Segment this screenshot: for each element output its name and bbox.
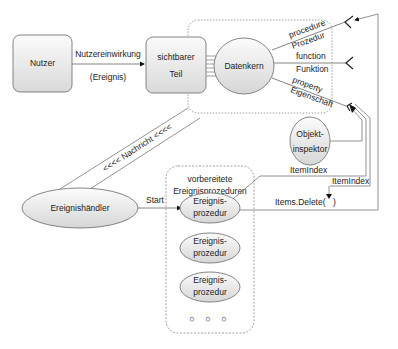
datenkern-node[interactable]: Datenkern [214, 38, 274, 94]
inspektor-label: inspektor [293, 144, 328, 154]
nachricht-line-lower [90, 118, 200, 189]
ereignisprozedur-3-node[interactable]: Ereignis- prozedur [180, 272, 240, 302]
nutzer-label: Nutzer [30, 58, 55, 68]
ereignisprozedur-3-line1: Ereignis- [193, 275, 227, 285]
ereignisprozedur-2-line1: Ereignis- [193, 236, 227, 246]
sichtbarer-label: sichtbarer [157, 52, 194, 62]
procedure-socket-icon [345, 16, 353, 28]
ereignisprozedur-3-line2: prozedur [193, 287, 227, 297]
ereignisprozedur-1-line2: prozedur [193, 208, 227, 218]
teil-label: Teil [170, 69, 183, 79]
nachricht-line-upper [60, 108, 188, 189]
nutzereinwirkung-label: Nutzereinwirkung [75, 49, 141, 59]
ereignisprozedur-2-line2: prozedur [193, 248, 227, 258]
itemindex-2-arrowhead-icon [326, 194, 332, 199]
diagram-canvas: Nutzer Nutzereinwirkung (Ereignis) sicht… [0, 0, 398, 349]
datenkern-label: Datenkern [224, 61, 263, 71]
more-ellipsis-icon: ○ ○ ○ [189, 314, 230, 324]
ereignishaendler-label: Ereignishändler [50, 203, 109, 213]
itemindex-1-label: ItemIndex [290, 165, 328, 175]
property-arrowhead-icon [349, 104, 356, 113]
funktion-label: Funktion [296, 64, 329, 74]
function-socket-icon [346, 57, 353, 69]
itemindex-line-2 [355, 104, 370, 186]
items-delete-label: Items.Delete( [275, 197, 326, 207]
objektinspektor-node[interactable]: Objekt- inspektor [290, 117, 330, 165]
items-delete-close: ) [333, 197, 336, 207]
nutzer-node[interactable]: Nutzer [13, 35, 72, 92]
ereignishaendler-node[interactable]: Ereignishändler [22, 188, 138, 228]
function-label: function [296, 51, 326, 61]
ereignisprozedur-1-line1: Ereignis- [193, 196, 227, 206]
itemindex-2-label: ItemIndex [332, 176, 370, 186]
objekt-label: Objekt- [296, 129, 324, 139]
sichtbarer-teil-node[interactable]: sichtbarer Teil [146, 37, 206, 93]
start-label: Start [146, 195, 165, 205]
ereignisprozedur-1-node[interactable]: Ereignis- prozedur [180, 193, 240, 223]
nachricht-label: <<<< Nachricht <<<< [101, 122, 174, 174]
ereignisprozedur-2-node[interactable]: Ereignis- prozedur [180, 233, 240, 263]
ereignis-label: (Ereignis) [90, 72, 127, 82]
group-title-line1: vorbereitete [188, 174, 233, 184]
